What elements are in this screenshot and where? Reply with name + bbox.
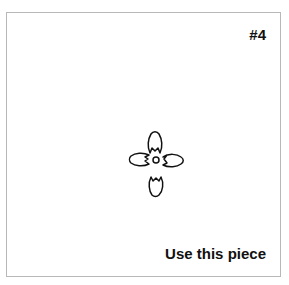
use-this-piece-button[interactable]: Use this piece: [165, 245, 266, 262]
piece-number: #4: [249, 26, 266, 43]
piece-card: #4 Use this piece: [6, 12, 281, 277]
four-petal-figure-icon: [121, 117, 191, 207]
